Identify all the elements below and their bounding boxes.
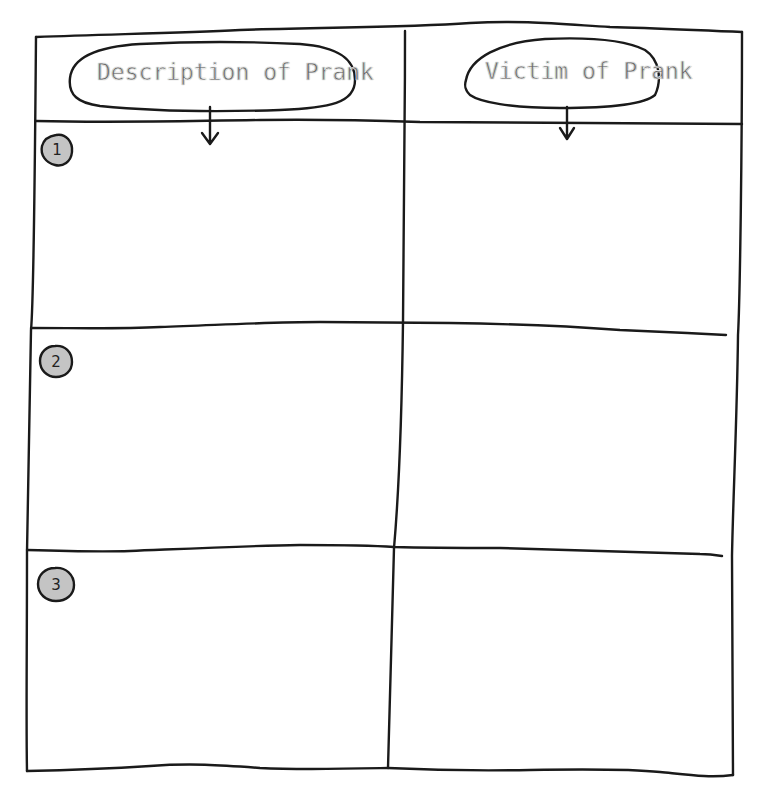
column-header-victim: Victim of Prank: [485, 58, 693, 84]
column-header-description: Description of Prank: [97, 59, 374, 85]
row-3-victim-cell[interactable]: [398, 556, 728, 766]
row-number-2: 2: [41, 347, 71, 377]
row-number-1: 1: [42, 135, 72, 165]
table-border-left: [27, 37, 36, 771]
row-2-description-cell[interactable]: [80, 332, 396, 544]
row-2-victim-cell[interactable]: [406, 330, 726, 544]
prank-worksheet: Description of Prank Victim of Prank 1 2…: [0, 0, 765, 799]
row-divider-2: [27, 545, 722, 556]
header-divider: [36, 120, 742, 124]
row-number-3: 3: [41, 570, 71, 600]
table-border-top: [36, 22, 742, 37]
row-1-description-cell[interactable]: [80, 128, 398, 320]
row-3-description-cell[interactable]: [80, 556, 386, 764]
row-1-victim-cell[interactable]: [410, 128, 736, 324]
table-border-bottom: [27, 765, 733, 777]
